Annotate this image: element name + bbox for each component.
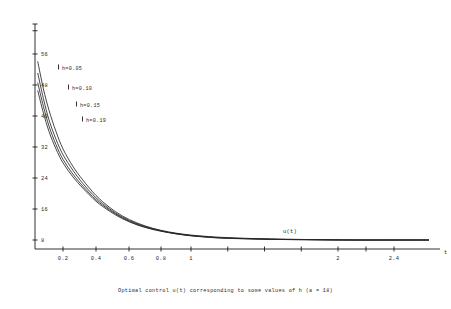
- y-tick-label: 24: [41, 176, 48, 182]
- x-tick-label: 0.4: [91, 256, 101, 262]
- curves-group: [38, 62, 429, 240]
- series-line: [38, 73, 429, 240]
- x-tick-label: 1: [189, 256, 193, 262]
- x-tick-label: 0.2: [58, 256, 68, 262]
- curve-label: h=0.15: [80, 103, 100, 109]
- annotations-group: h=0.05h=0.10h=0.15h=0.19u(t)t: [59, 65, 448, 257]
- axes-group: [33, 24, 441, 249]
- series-line: [38, 62, 429, 240]
- y-tick-label: 16: [41, 207, 48, 213]
- x-tick-label: 0.6: [124, 256, 134, 262]
- y-tick-label: 32: [41, 145, 48, 151]
- series-line: [38, 91, 429, 240]
- curve-label: h=0.19: [86, 118, 106, 124]
- x-tick-label: 0.8: [156, 256, 166, 262]
- x-tick-label: 2: [336, 256, 340, 262]
- y-tick-label: 56: [41, 52, 48, 58]
- x-tick-label: 2.4: [389, 256, 399, 262]
- curve-label: h=0.10: [72, 86, 92, 92]
- y-tick-label: 8: [41, 238, 45, 244]
- x-axis-name: t: [444, 250, 448, 256]
- figure-container: 5648403224168 0.20.40.60.8122.4 h=0.05h=…: [0, 0, 451, 309]
- curve-label: h=0.05: [62, 66, 82, 72]
- curve-annotation-ut: u(t): [283, 229, 297, 235]
- chart-canvas: 5648403224168 0.20.40.60.8122.4 h=0.05h=…: [0, 0, 451, 309]
